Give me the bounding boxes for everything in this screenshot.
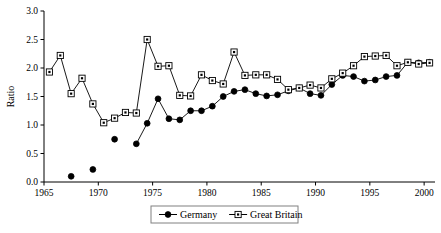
- legend: GermanyGreat Britain: [151, 206, 303, 223]
- data-point-marker: [188, 108, 194, 114]
- data-point-marker: [362, 78, 368, 84]
- data-point-marker-center: [276, 78, 278, 80]
- data-point-marker: [144, 120, 150, 126]
- data-point-marker-center: [190, 95, 192, 97]
- data-point-marker: [220, 94, 226, 100]
- y-tick-label: 0.5: [26, 149, 38, 159]
- x-tick-label: 1975: [143, 188, 162, 198]
- data-point-marker-center: [298, 87, 300, 89]
- data-point-marker: [372, 77, 378, 83]
- y-tick-label: 2.5: [26, 35, 38, 45]
- x-axis-ticks: 19651970197519801985199019952000: [35, 182, 434, 198]
- data-point-marker: [177, 117, 183, 123]
- data-point-marker-center: [418, 63, 420, 65]
- x-tick-label: 1970: [89, 188, 108, 198]
- x-tick-label: 1995: [360, 188, 379, 198]
- data-point-marker: [68, 173, 74, 179]
- data-point-marker-center: [92, 103, 94, 105]
- data-point-marker: [264, 93, 270, 99]
- data-point-marker-center: [342, 72, 344, 74]
- data-point-marker-center: [428, 62, 430, 64]
- data-point-marker: [242, 87, 248, 93]
- data-point-marker-center: [266, 74, 268, 76]
- data-point-marker-center: [70, 93, 72, 95]
- legend-label: Germany: [180, 209, 217, 220]
- data-point-marker: [329, 82, 335, 88]
- data-point-marker-center: [168, 65, 170, 67]
- data-point-marker-center: [157, 65, 159, 67]
- data-point-marker-center: [385, 54, 387, 56]
- y-tick-label: 1.5: [26, 92, 38, 102]
- data-point-marker-center: [396, 65, 398, 67]
- x-tick-label: 1985: [252, 188, 271, 198]
- data-point-marker-center: [113, 117, 115, 119]
- data-point-marker-center: [124, 111, 126, 113]
- data-point-marker-center: [374, 55, 376, 57]
- x-tick-label: 1990: [306, 188, 325, 198]
- data-point-marker: [318, 92, 324, 98]
- data-point-marker-center: [233, 51, 235, 53]
- y-tick-label: 2.0: [26, 63, 38, 73]
- y-tick-label: 0.0: [26, 177, 38, 187]
- data-point-marker: [351, 74, 357, 80]
- data-point-marker: [166, 116, 172, 122]
- data-point-marker: [90, 167, 96, 173]
- data-point-marker-center: [407, 61, 409, 63]
- x-tick-label: 1965: [35, 188, 54, 198]
- data-point-marker: [133, 141, 139, 147]
- series-germany: [68, 59, 432, 179]
- data-point-marker-center: [211, 79, 213, 81]
- legend-marker-square-center-icon: [237, 213, 239, 215]
- data-point-marker-center: [103, 122, 105, 124]
- data-point-marker-center: [244, 74, 246, 76]
- x-tick-label: 1980: [197, 188, 216, 198]
- x-tick-label: 2000: [415, 188, 434, 198]
- data-point-marker-center: [48, 71, 50, 73]
- data-point-marker-center: [146, 38, 148, 40]
- data-point-marker-center: [320, 87, 322, 89]
- data-point-marker-center: [179, 94, 181, 96]
- data-point-marker: [307, 91, 313, 97]
- data-point-marker-center: [59, 54, 61, 56]
- data-point-marker: [383, 74, 389, 80]
- data-point-marker-center: [222, 83, 224, 85]
- legend-marker-filled-circle-icon: [165, 212, 171, 218]
- y-axis-title: Ratio: [5, 86, 16, 108]
- data-point-marker: [275, 92, 281, 98]
- data-point-marker-center: [135, 112, 137, 114]
- data-point-marker-center: [331, 78, 333, 80]
- y-tick-label: 1.0: [26, 120, 38, 130]
- y-axis-ticks: 0.00.51.01.52.02.53.0: [26, 6, 44, 187]
- data-point-marker: [253, 91, 259, 97]
- data-point-marker-center: [287, 89, 289, 91]
- data-point-marker: [199, 108, 205, 114]
- axes: [44, 11, 435, 182]
- data-point-marker-center: [81, 77, 83, 79]
- line-chart: 0.00.51.01.52.02.53.01965197019751980198…: [0, 0, 441, 233]
- data-point-marker-center: [363, 56, 365, 58]
- data-point-marker-center: [352, 65, 354, 67]
- data-point-marker: [112, 136, 118, 142]
- data-point-marker: [155, 96, 161, 102]
- data-point-marker: [231, 88, 237, 94]
- y-tick-label: 3.0: [26, 6, 38, 16]
- data-point-marker-center: [255, 74, 257, 76]
- chart-figure: 0.00.51.01.52.02.53.01965197019751980198…: [0, 0, 441, 233]
- data-point-marker-center: [309, 84, 311, 86]
- data-point-marker: [394, 73, 400, 79]
- legend-label: Great Britain: [250, 209, 302, 220]
- data-point-marker: [209, 103, 215, 109]
- data-point-marker-center: [200, 74, 202, 76]
